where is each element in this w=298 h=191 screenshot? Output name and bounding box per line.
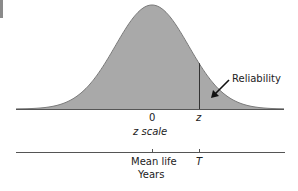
mean-life-label: Mean life [131, 157, 177, 167]
reliability-label: Reliability [232, 74, 281, 84]
z-tick-label-z: z [196, 113, 201, 123]
t-label: T [196, 157, 202, 167]
normal-curve-area [16, 5, 284, 109]
z-scale-title-text: z scale [133, 126, 167, 137]
years-label: Years [138, 170, 164, 180]
z-tick-label-zero: 0 [149, 113, 155, 123]
z-scale-title: z scale [133, 127, 167, 137]
